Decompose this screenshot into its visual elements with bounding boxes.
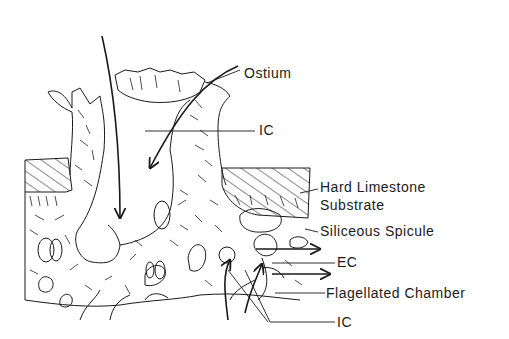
limestone-substrate-left [25, 158, 72, 192]
label-flagellated-chamber: Flagellated Chamber [326, 286, 465, 301]
leader-siliceous-spicule [305, 229, 318, 232]
label-siliceous-spicule: Siliceous Spicule [320, 224, 434, 239]
leader-ostium [207, 70, 240, 83]
limestone-substrate-right [222, 168, 310, 218]
label-ic-bottom: IC [337, 315, 352, 330]
label-ostium: Ostium [244, 66, 291, 81]
label-ic-top: IC [259, 123, 274, 138]
inflow-arrow-chamber-1 [225, 260, 230, 320]
label-ec: EC [337, 255, 357, 270]
sponge-diagram: Ostium IC Hard Limestone Substrate Silic… [0, 0, 509, 339]
label-hard-limestone: Hard Limestone [320, 180, 426, 195]
label-substrate: Substrate [320, 198, 384, 213]
